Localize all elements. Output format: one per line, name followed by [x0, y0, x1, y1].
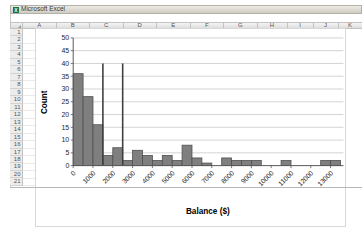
histogram-bar[interactable]	[152, 161, 162, 166]
window-bottom-border	[10, 187, 362, 188]
y-tick-label: 20	[62, 111, 70, 118]
x-tick-label: 7000	[200, 169, 216, 185]
row-header-13[interactable]: 13	[10, 119, 23, 126]
row-header-19[interactable]: 19	[10, 163, 23, 170]
chart-object[interactable]: 0510152025303540455001000200030004000500…	[35, 28, 346, 227]
row-header-18[interactable]: 18	[10, 156, 23, 163]
row-header-12[interactable]: 12	[10, 111, 23, 118]
y-tick-label: 0	[65, 162, 69, 169]
row-header-7[interactable]: 7	[10, 74, 23, 81]
x-tick-label: 13000	[316, 169, 334, 187]
row-header-5[interactable]: 5	[10, 59, 23, 66]
histogram-bar[interactable]	[241, 161, 251, 166]
histogram-bar[interactable]	[232, 161, 242, 166]
row-header-3[interactable]: 3	[10, 44, 23, 51]
row-header-20[interactable]: 20	[10, 171, 23, 178]
histogram-bar[interactable]	[192, 158, 202, 166]
chart-canvas[interactable]: 0510152025303540455001000200030004000500…	[36, 29, 345, 226]
worksheet-grid[interactable]	[23, 29, 35, 186]
row-header-6[interactable]: 6	[10, 66, 23, 73]
x-tick-label: 6000	[180, 169, 196, 185]
x-tick-label: 4000	[141, 169, 157, 185]
row-header-14[interactable]: 14	[10, 126, 23, 133]
histogram-bar[interactable]	[123, 161, 133, 166]
select-all-corner[interactable]	[10, 22, 23, 29]
window-title: Microsoft Excel	[21, 6, 65, 13]
row-header-1[interactable]: 1	[10, 29, 23, 36]
row-header-11[interactable]: 11	[10, 104, 23, 111]
row-header-10[interactable]: 10	[10, 96, 23, 103]
y-tick-label: 10	[62, 136, 70, 143]
histogram-bar[interactable]	[172, 161, 182, 166]
histogram-bar[interactable]	[142, 155, 152, 165]
excel-window: X Microsoft Excel ABCDEFGHIJK 1234567891…	[0, 0, 362, 249]
histogram-bar[interactable]	[103, 155, 113, 165]
histogram-bar[interactable]	[162, 155, 172, 165]
title-bar[interactable]: X Microsoft Excel	[10, 5, 362, 14]
row-header-4[interactable]: 4	[10, 51, 23, 58]
row-header-17[interactable]: 17	[10, 149, 23, 156]
excel-app-icon: X	[13, 7, 19, 13]
histogram-bar[interactable]	[321, 161, 331, 166]
row-header-column: 123456789101112131415161718192021	[10, 29, 23, 186]
x-tick-label: 12000	[296, 169, 314, 187]
y-tick-label: 30	[62, 85, 70, 92]
y-tick-label: 5	[65, 149, 69, 156]
x-tick-label: 9000	[240, 169, 256, 185]
row-header-8[interactable]: 8	[10, 81, 23, 88]
histogram-bar[interactable]	[83, 97, 93, 166]
histogram-bar[interactable]	[331, 161, 341, 166]
y-tick-label: 15	[62, 124, 70, 131]
y-tick-label: 35	[62, 73, 70, 80]
row-header-21[interactable]: 21	[10, 178, 23, 185]
row-header-9[interactable]: 9	[10, 89, 23, 96]
y-axis-title: Count	[40, 90, 49, 114]
x-axis-title: Balance ($)	[186, 207, 230, 216]
row-header-2[interactable]: 2	[10, 36, 23, 43]
x-tick-label: 11000	[277, 169, 295, 187]
x-tick-label: 3000	[121, 169, 137, 185]
x-tick-label: 1000	[81, 169, 97, 185]
histogram-bar[interactable]	[93, 125, 103, 166]
row-header-15[interactable]: 15	[10, 134, 23, 141]
x-tick-label: 2000	[101, 169, 117, 185]
histogram-bar[interactable]	[251, 161, 261, 166]
histogram-bar[interactable]	[222, 158, 232, 166]
x-tick-label: 8000	[220, 169, 236, 185]
histogram-bar[interactable]	[133, 150, 143, 165]
histogram-bar[interactable]	[182, 145, 192, 165]
x-tick-label: 5000	[160, 169, 176, 185]
y-tick-label: 45	[62, 47, 70, 54]
histogram-bar[interactable]	[113, 148, 123, 166]
row-header-16[interactable]: 16	[10, 141, 23, 148]
histogram-bar[interactable]	[281, 161, 291, 166]
histogram-bar[interactable]	[73, 74, 83, 166]
y-tick-label: 50	[62, 34, 70, 41]
x-tick-label: 10000	[257, 169, 275, 187]
y-tick-label: 40	[62, 60, 70, 67]
x-tick-label: 0	[69, 169, 77, 177]
y-tick-label: 25	[62, 98, 70, 105]
